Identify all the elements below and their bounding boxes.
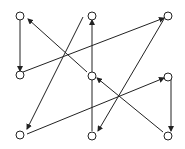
graph-svg <box>0 0 185 149</box>
node-f <box>164 73 172 81</box>
edge-arrow-d-to-c <box>23 18 164 72</box>
node-h <box>88 132 96 140</box>
directed-graph-diagram <box>0 0 185 149</box>
edge-arrow-b-to-g <box>27 17 83 129</box>
node-b <box>88 12 96 20</box>
node-d <box>16 71 24 79</box>
edge-arrow-g-to-f <box>27 78 164 134</box>
node-i <box>164 132 172 140</box>
node-c <box>164 12 172 20</box>
node-e <box>88 72 96 80</box>
node-a <box>16 12 24 20</box>
edge-arrow-i-to-e <box>97 78 163 132</box>
edge-arrow-c-to-h <box>98 19 164 131</box>
node-g <box>16 131 24 139</box>
